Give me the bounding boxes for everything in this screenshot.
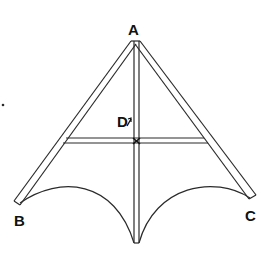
strut-ac	[135, 41, 256, 199]
kite-frame-drawing	[0, 0, 271, 255]
curve-left	[20, 187, 134, 243]
label-c: C	[245, 208, 256, 223]
label-a: A	[128, 22, 139, 37]
label-b: B	[14, 213, 25, 228]
curve-right	[139, 187, 250, 243]
label-d: D	[117, 114, 128, 129]
stray-dot	[2, 104, 5, 107]
kite-diagram: A B C D	[0, 0, 271, 255]
